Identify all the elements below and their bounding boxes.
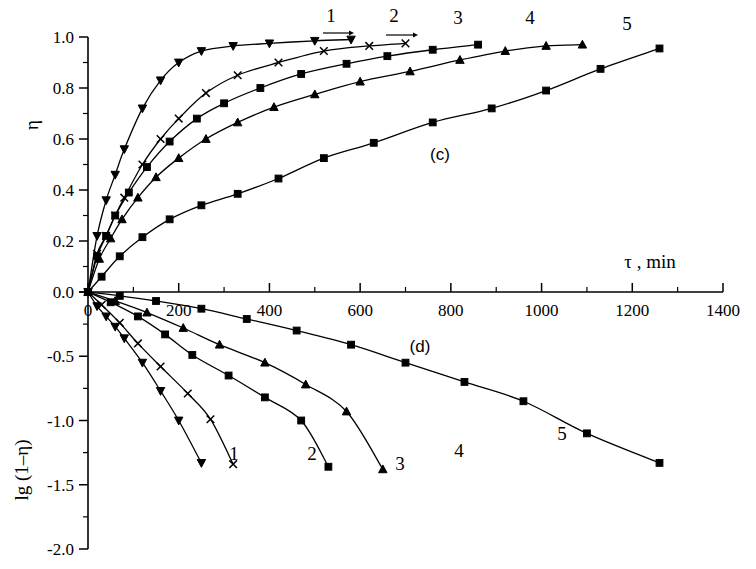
yaxis-top-tick-label: 0.2 [53, 232, 74, 251]
data-point-c-3 [166, 138, 173, 145]
data-point-d-5 [293, 327, 300, 334]
curve-d-3 [88, 292, 328, 467]
xaxis-title: τ , min [624, 251, 676, 272]
data-point-c-5 [488, 105, 495, 112]
xaxis-tick-label: 0 [84, 301, 93, 320]
data-point-d-5 [584, 430, 591, 437]
data-point-c-1 [102, 197, 110, 205]
data-point-c-3 [384, 53, 391, 60]
data-point-d-3 [261, 394, 268, 401]
data-point-d-3 [189, 352, 196, 359]
curve-number-bottom-3: 3 [395, 453, 405, 474]
panel-label-c: (c) [430, 145, 450, 164]
xaxis-tick-label: 1200 [615, 301, 649, 320]
data-point-c-3 [343, 60, 350, 67]
data-point-d-5 [153, 298, 160, 305]
panel-label-d: (d) [410, 337, 431, 356]
yaxis-top-title: η [21, 120, 42, 130]
data-point-c-3 [125, 189, 132, 196]
data-point-d-4 [302, 380, 310, 388]
xaxis-tick-label: 1000 [525, 301, 559, 320]
curve-number-top-3: 3 [453, 7, 463, 28]
data-point-d-4 [379, 465, 387, 473]
data-point-c-5 [275, 175, 282, 182]
data-point-c-5 [543, 87, 550, 94]
data-point-c-1 [175, 59, 183, 67]
data-point-c-4 [233, 118, 241, 126]
yaxis-top-tick-label: 0.4 [53, 181, 75, 200]
data-point-c-3 [193, 115, 200, 122]
data-point-c-2 [157, 135, 165, 143]
curve-number-bottom-1: 1 [229, 443, 239, 464]
data-point-d-5 [520, 398, 527, 405]
annotations-layer: (c)(d)1234512345 [229, 5, 632, 474]
curve-c-5 [88, 48, 660, 292]
data-point-d-2 [134, 340, 142, 348]
data-point-c-4 [175, 154, 183, 162]
yaxis-top-tick-label: 1.0 [53, 28, 74, 47]
data-point-d-2 [157, 363, 165, 371]
data-point-c-3 [112, 212, 119, 219]
curve-leader-arrow-1 [323, 30, 354, 35]
data-point-d-5 [402, 359, 409, 366]
data-point-d-4 [261, 358, 269, 366]
curve-number-bottom-2: 2 [307, 443, 317, 464]
data-point-c-5 [98, 273, 105, 280]
yaxis-bottom-title: lg (1–η) [11, 439, 33, 500]
data-point-c-5 [597, 65, 604, 72]
data-point-c-5 [234, 190, 241, 197]
xaxis-tick-label: 400 [257, 301, 283, 320]
data-point-c-5 [166, 216, 173, 223]
data-point-c-3 [144, 164, 151, 171]
data-point-c-3 [221, 100, 228, 107]
curve-leader-arrow-2 [386, 32, 418, 37]
yaxis-top-tick-label: 0.0 [53, 283, 74, 302]
data-point-c-2 [234, 71, 242, 79]
data-point-c-5 [116, 253, 123, 260]
data-point-d-3 [225, 372, 232, 379]
yaxis-bottom-tick-label: -1.5 [47, 476, 74, 495]
data-point-d-1 [156, 388, 164, 396]
data-point-c-5 [656, 45, 663, 52]
yaxis-top-tick-label: 0.6 [53, 130, 74, 149]
curve-number-top-1: 1 [326, 5, 336, 26]
data-point-c-2 [175, 115, 183, 123]
curve-number-top-5: 5 [622, 13, 632, 34]
data-point-d-3 [162, 331, 169, 338]
yaxis-bottom-tick-label: -2.0 [47, 540, 74, 559]
data-point-c-2 [202, 89, 210, 97]
curve-number-bottom-5: 5 [557, 423, 567, 444]
data-point-c-5 [85, 289, 92, 296]
data-point-c-5 [429, 119, 436, 126]
curve-number-top-2: 2 [389, 5, 399, 26]
data-point-d-5 [243, 316, 250, 323]
data-point-d-2 [207, 415, 215, 423]
data-point-d-4 [179, 324, 187, 332]
figure-container: 0.00.20.40.60.81.0η-2.0-1.5-1.0-0.5lg (1… [0, 0, 756, 569]
data-point-c-1 [120, 146, 128, 154]
curve-c-1 [88, 40, 351, 292]
data-point-d-4 [215, 340, 223, 348]
curves-layer [88, 40, 660, 470]
xaxis-tick-label: 1400 [706, 301, 740, 320]
data-point-d-2 [184, 390, 192, 398]
data-point-d-3 [298, 417, 305, 424]
data-point-d-5 [116, 292, 123, 299]
data-point-c-2 [275, 59, 283, 67]
yaxis-top-tick-label: 0.8 [53, 79, 74, 98]
curve-number-top-4: 4 [525, 7, 535, 28]
xaxis-tick-label: 200 [166, 301, 192, 320]
data-point-c-1 [111, 171, 119, 179]
data-point-c-5 [320, 155, 327, 162]
xaxis-tick-label: 600 [347, 301, 373, 320]
data-point-d-1 [197, 460, 205, 468]
data-point-c-1 [93, 233, 101, 241]
data-point-c-3 [475, 41, 482, 48]
yaxis-bottom-tick-label: -1.0 [47, 412, 74, 431]
data-point-d-3 [134, 313, 141, 320]
data-point-d-1 [175, 417, 183, 425]
data-point-c-3 [257, 85, 264, 92]
data-point-c-5 [198, 202, 205, 209]
data-point-d-5 [461, 379, 468, 386]
data-point-c-5 [139, 234, 146, 241]
